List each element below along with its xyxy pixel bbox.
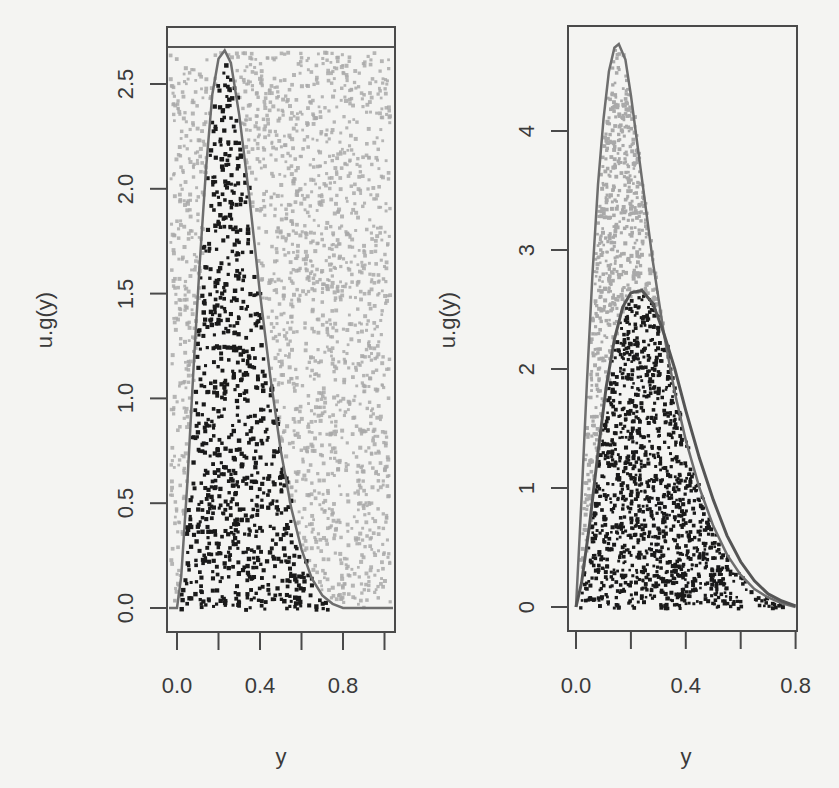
left-y-tick-label: 2.5 [113,69,139,100]
right-y-tick-label: 2 [514,363,540,375]
right-x-tick-label: 0.0 [561,673,592,699]
left-x-tick-label: 0.4 [245,673,276,699]
left-y-tick-label: 1.0 [113,383,139,414]
left-y-axis [150,84,167,608]
right-y-tick-label: 4 [514,125,540,137]
left-y-tick-label: 0.5 [113,488,139,519]
right-x-axis [576,631,796,649]
left-panel [150,27,395,650]
left-x-axis-label: y [276,744,287,770]
left-rejected-points [169,51,392,610]
left-y-tick-label: 2.0 [113,174,139,205]
left-x-tick-label: 0.0 [162,673,193,699]
left-density-curve [169,51,393,609]
right-y-axis [551,131,568,607]
left-x-tick-label: 0.8 [328,673,359,699]
left-y-tick-label: 1.5 [113,278,139,309]
right-y-tick-label: 3 [514,244,540,256]
right-x-tick-label: 0.4 [671,673,702,699]
left-y-axis-label: u.g(y) [32,292,58,348]
left-y-tick-label: 0.0 [113,593,139,624]
right-y-tick-label: 1 [514,482,540,494]
right-y-tick-label: 0 [514,601,540,613]
right-x-tick-label: 0.8 [780,673,811,699]
right-y-axis-label: u.g(y) [435,292,461,348]
left-x-axis [177,632,385,650]
right-panel [551,26,797,649]
right-x-axis-label: y [681,744,692,770]
right-accepted-points [579,295,785,611]
